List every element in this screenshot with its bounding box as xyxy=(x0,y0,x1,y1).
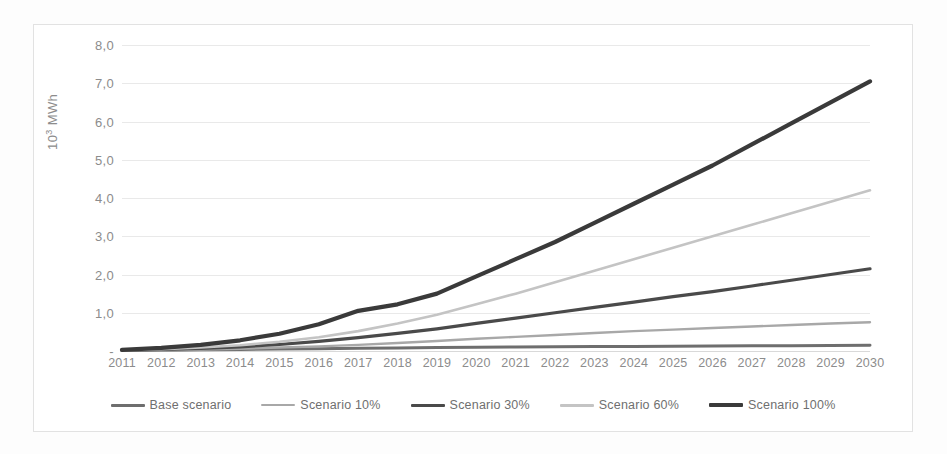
y-tick-label: 3,0 xyxy=(95,229,114,244)
y-axis-title-base: 10 xyxy=(45,135,60,150)
y-tick-label: 7,0 xyxy=(95,76,114,91)
y-axis-title-exponent: 3 xyxy=(44,129,54,134)
x-tick-label: 2021 xyxy=(501,356,530,370)
x-tick-label: 2028 xyxy=(777,356,806,370)
legend-label: Scenario 60% xyxy=(599,398,679,412)
chart-legend: Base scenarioScenario 10%Scenario 30%Sce… xyxy=(33,392,913,418)
legend-item[interactable]: Scenario 10% xyxy=(261,398,380,412)
x-tick-label: 2016 xyxy=(305,356,334,370)
x-tick-label: 2012 xyxy=(147,356,176,370)
x-tick-label: 2019 xyxy=(423,356,452,370)
x-tick-label: 2022 xyxy=(541,356,570,370)
y-tick-label: 4,0 xyxy=(95,191,114,206)
legend-label: Scenario 10% xyxy=(300,398,380,412)
x-tick-label: 2024 xyxy=(619,356,648,370)
x-tick-label: 2026 xyxy=(698,356,727,370)
legend-swatch-icon xyxy=(111,404,145,407)
x-tick-label: 2017 xyxy=(344,356,373,370)
x-tick-label: 2015 xyxy=(265,356,294,370)
x-tick-label: 2030 xyxy=(856,356,885,370)
legend-item[interactable]: Scenario 100% xyxy=(709,398,835,412)
y-tick-label: 5,0 xyxy=(95,152,114,167)
y-tick-label: 6,0 xyxy=(95,114,114,129)
y-axis-title: 103 MWh xyxy=(44,94,60,150)
x-tick-label: 2029 xyxy=(816,356,845,370)
legend-item[interactable]: Scenario 60% xyxy=(560,398,679,412)
legend-swatch-icon xyxy=(560,404,594,407)
x-tick-label: 2023 xyxy=(580,356,609,370)
y-axis-tick-labels: 8,07,06,05,04,03,02,01,0- xyxy=(62,45,114,351)
x-tick-label: 2025 xyxy=(659,356,688,370)
x-tick-label: 2027 xyxy=(738,356,767,370)
chart-figure: 103 MWh 8,07,06,05,04,03,02,01,0- 201120… xyxy=(0,0,947,454)
legend-item[interactable]: Scenario 30% xyxy=(411,398,530,412)
x-tick-label: 2020 xyxy=(462,356,491,370)
x-tick-label: 2013 xyxy=(186,356,215,370)
legend-item[interactable]: Base scenario xyxy=(111,398,232,412)
plot-area xyxy=(122,45,870,351)
series-lines xyxy=(122,45,870,351)
legend-swatch-icon xyxy=(261,404,295,406)
x-axis-tick-labels: 2011201220132014201520162017201820192020… xyxy=(122,356,870,378)
x-tick-label: 2014 xyxy=(226,356,255,370)
legend-label: Scenario 30% xyxy=(450,398,530,412)
y-tick-label: 8,0 xyxy=(95,38,114,53)
y-tick-label: 1,0 xyxy=(95,305,114,320)
y-tick-label: 2,0 xyxy=(95,267,114,282)
legend-label: Scenario 100% xyxy=(748,398,835,412)
x-tick-label: 2018 xyxy=(383,356,412,370)
x-tick-label: 2011 xyxy=(108,356,136,370)
legend-label: Base scenario xyxy=(150,398,232,412)
y-axis-title-unit: MWh xyxy=(45,94,60,130)
legend-swatch-icon xyxy=(411,404,445,407)
legend-swatch-icon xyxy=(709,403,743,407)
series-line xyxy=(122,81,870,350)
